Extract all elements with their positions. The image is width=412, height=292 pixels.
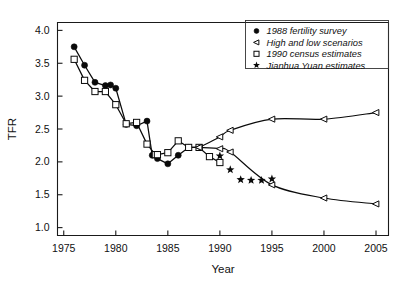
chart-legend: 1988 fertility surveyHigh and low scenar…: [246, 21, 389, 71]
marker-open-square: [206, 154, 212, 160]
marker-open-triangle-left: [372, 201, 378, 207]
x-tick-label: 1980: [104, 242, 128, 254]
series-polyline: [74, 47, 199, 164]
marker-star: [216, 152, 224, 160]
marker-open-triangle-left: [268, 116, 274, 122]
y-tick-label: 3.5: [35, 57, 50, 69]
legend-item-1: High and low scenarios: [254, 38, 363, 48]
y-axis-title: TFR: [6, 118, 18, 140]
marker-open-triangle-left: [216, 146, 222, 152]
marker-open-square: [123, 121, 129, 127]
y-tick-label: 3.0: [35, 90, 50, 102]
legend-label: 1988 fertility survey: [267, 26, 348, 36]
marker-star: [237, 175, 245, 183]
x-tick-label: 1995: [260, 242, 284, 254]
y-tick-label: 2.0: [35, 155, 50, 167]
legend-label: High and low scenarios: [267, 38, 363, 48]
marker-open-square: [217, 159, 223, 165]
marker-open-square: [186, 144, 192, 150]
marker-open-square: [71, 56, 77, 62]
legend-label: Jianhua Yuan estimates: [266, 61, 366, 71]
marker-filled-circle: [113, 85, 119, 91]
series-1988-fertility-survey: [71, 44, 202, 167]
legend-item-0: 1988 fertility survey: [254, 26, 348, 36]
tfr-chart-figure: 1.01.52.02.53.03.54.01975198019851990199…: [0, 0, 412, 292]
series-jianhua-yuan-estimates: [216, 152, 276, 184]
series-high-scenario: [195, 110, 378, 151]
legend-item-2: 1990 census estimates: [254, 49, 362, 59]
marker-open-triangle-left: [320, 116, 326, 122]
marker-open-triangle-left: [372, 110, 378, 116]
y-tick-label: 4.0: [35, 24, 50, 36]
marker-open-triangle-left: [227, 127, 233, 133]
marker-open-square: [92, 88, 98, 94]
marker-open-square: [144, 141, 150, 147]
marker-star: [257, 176, 265, 184]
marker-open-square: [134, 119, 140, 125]
scenario-curve: [199, 147, 376, 204]
marker-filled-circle: [71, 44, 77, 50]
marker-open-square: [175, 138, 181, 144]
y-tick-label: 2.5: [35, 123, 50, 135]
marker-open-square: [113, 102, 119, 108]
series-low-scenario: [195, 144, 378, 207]
x-tick-label: 1985: [156, 242, 180, 254]
marker-open-square: [102, 88, 108, 94]
marker-star: [253, 62, 260, 69]
legend-label: 1990 census estimates: [267, 49, 362, 59]
marker-filled-circle: [175, 152, 181, 158]
marker-open-square: [165, 150, 171, 156]
marker-open-square: [81, 77, 87, 83]
marker-open-triangle-left: [216, 134, 222, 140]
x-tick-label: 2005: [364, 242, 388, 254]
marker-open-triangle-left: [254, 40, 259, 45]
marker-filled-circle: [82, 62, 88, 68]
marker-filled-circle: [144, 118, 150, 124]
scenario-curve: [199, 113, 376, 148]
x-tick-label: 2000: [312, 242, 336, 254]
x-tick-label: 1990: [208, 242, 232, 254]
marker-open-triangle-left: [268, 182, 274, 188]
marker-filled-circle: [108, 82, 114, 88]
marker-star: [226, 165, 234, 173]
marker-open-triangle-left: [320, 195, 326, 201]
legend-item-3: Jianhua Yuan estimates: [253, 61, 365, 71]
y-tick-label: 1.0: [35, 221, 50, 233]
marker-open-square: [254, 51, 259, 56]
marker-filled-circle: [92, 79, 98, 85]
x-tick-label: 1975: [52, 242, 76, 254]
marker-filled-circle: [165, 161, 171, 167]
chart-canvas: 1.01.52.02.53.03.54.01975198019851990199…: [0, 0, 412, 292]
marker-open-square: [154, 152, 160, 158]
y-tick-label: 1.5: [35, 188, 50, 200]
marker-star: [247, 176, 255, 184]
x-axis-title: Year: [211, 263, 234, 275]
marker-filled-circle: [254, 29, 259, 34]
